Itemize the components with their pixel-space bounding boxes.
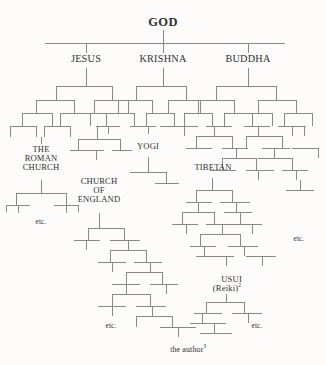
node-label-church-of-england: CHURCH OF ENGLAND: [69, 177, 129, 203]
node-label-krishna: KRISHNA: [128, 54, 198, 64]
diagram-canvas: GOD JESUS KRISHNA BUDDHA THE ROMAN CHURC…: [0, 0, 326, 365]
node-label-usui-superscript: 2: [238, 282, 241, 288]
node-label-tibetan: TIBETAN: [188, 163, 238, 172]
node-label-jesus: JESUS: [56, 54, 116, 64]
node-label-the-author-superscript: 3: [203, 344, 206, 350]
terminal-label-etc-right-upper: etc.: [284, 235, 314, 243]
node-label-usui: USUI (Reiki)2: [201, 266, 253, 301]
node-label-roman-church: THE ROMAN CHURCH: [11, 145, 71, 171]
node-label-yogi: YOGI: [128, 142, 168, 151]
terminal-label-etc-right-lower: etc.: [242, 322, 272, 330]
node-label-the-author-text: the author: [170, 345, 203, 354]
node-label-the-author: the author3: [155, 338, 213, 362]
node-label-god: GOD: [133, 16, 193, 29]
terminal-label-etc-center: etc.: [96, 322, 126, 330]
terminal-label-etc-left: etc.: [26, 218, 56, 226]
node-label-buddha: BUDDHA: [216, 54, 280, 64]
